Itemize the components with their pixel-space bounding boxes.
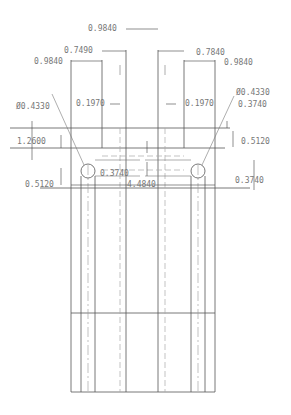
dim-top-center-width: 0.9840 xyxy=(88,24,117,33)
dim-center-offset: 0.3740 xyxy=(100,169,129,178)
dim-overall-width: 4.4840 xyxy=(127,180,156,189)
dim-left-height: 1.2600 xyxy=(17,137,46,146)
dim-right-lower-offset: 0.3740 xyxy=(235,176,264,185)
dim-left-lower-offset: 0.5120 xyxy=(25,180,54,189)
dim-right-hole-diameter: Ø0.4330 xyxy=(236,87,270,97)
dim-right-inner-width: 0.7840 xyxy=(196,48,225,57)
dim-left-outer-width: 0.9840 xyxy=(34,57,63,66)
dim-left-inner-width: 0.7490 xyxy=(64,46,93,55)
dim-right-mid-height: 0.5120 xyxy=(241,137,270,146)
dim-right-outer-width: 0.9840 xyxy=(224,58,253,67)
dim-left-gap: 0.1970 xyxy=(76,99,105,108)
dim-right-gap: 0.1970 xyxy=(185,99,214,108)
dim-right-top-offset: 0.3740 xyxy=(238,100,267,109)
dim-left-hole-diameter: Ø0.4330 xyxy=(16,101,50,111)
technical-drawing: 0.9840 0.7490 0.9840 0.7840 0.9840 0.197… xyxy=(0,0,291,415)
part-outline xyxy=(10,128,250,392)
